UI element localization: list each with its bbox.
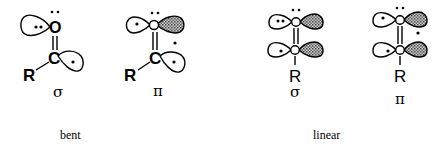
lone-pair-dot — [402, 7, 405, 10]
electron-dot — [135, 22, 138, 25]
carbon-atom-circle — [291, 46, 300, 55]
r-group: R — [124, 66, 136, 85]
radical-electron-dot — [71, 60, 74, 63]
oxygen-p-lobe-left — [269, 15, 292, 29]
r-group: R — [394, 67, 406, 86]
caption-bent: bent — [60, 128, 81, 142]
lone-pair-dot — [57, 11, 60, 14]
lone-pair-dot — [151, 12, 154, 15]
carbon-sigma-lobe — [58, 51, 83, 71]
oxygen-p-lobe-left — [373, 13, 396, 27]
lone-pair-dot — [292, 9, 295, 12]
structure-linear-sigma: R σ — [268, 9, 323, 101]
pi-electron-dot — [416, 31, 419, 34]
oxygen-atom-circle — [396, 16, 405, 25]
acyl-radical-orbital-diagram: O C R σ C R π — [0, 0, 443, 147]
r-group: R — [23, 66, 35, 85]
radical-electron-dot — [172, 60, 175, 63]
caption-linear: linear — [313, 128, 340, 142]
oxygen-lone-pair-lobe — [21, 15, 50, 35]
structure-bent-pi: C R π — [124, 12, 185, 100]
orbital-symbol-sigma: σ — [290, 83, 300, 101]
pi-electron-dot — [173, 41, 176, 44]
electron-dot — [34, 25, 37, 28]
carbon-sigma-lobe-left — [268, 43, 291, 57]
radical-electron-dot — [386, 49, 389, 52]
electron-dot — [39, 25, 42, 28]
electron-dot — [277, 20, 280, 23]
carbon-lobe-right-shaded — [299, 42, 323, 57]
structure-linear-pi: R π — [373, 7, 427, 108]
carbon-atom: C — [149, 49, 161, 68]
oxygen-p-lobe-right-shaded — [404, 12, 427, 27]
carbon-atom-circle — [396, 46, 405, 55]
carbon-lobe-right-shaded — [404, 42, 427, 57]
lone-pair-dot — [157, 12, 160, 15]
orbital-symbol-pi: π — [153, 82, 163, 100]
carbon-sigma-lobe-left — [373, 43, 396, 57]
lone-pair-dot — [298, 9, 301, 12]
electron-dot — [282, 20, 285, 23]
oxygen-p-lobe-right-shaded — [157, 16, 184, 33]
oxygen-atom-circle — [292, 18, 301, 27]
oxygen-atom: O — [49, 19, 61, 36]
radical-electron-dot — [279, 49, 282, 52]
electron-dot — [381, 16, 384, 19]
orbital-symbol-sigma: σ — [53, 83, 63, 101]
carbon-atom: C — [48, 49, 60, 68]
lone-pair-dot — [396, 7, 399, 10]
oxygen-p-lobe-right-shaded — [300, 14, 323, 29]
structure-bent-sigma: O C R σ — [21, 11, 83, 101]
oxygen-atom-circle — [150, 21, 159, 30]
orbital-symbol-pi: π — [395, 90, 405, 108]
lone-pair-dot — [51, 11, 54, 14]
